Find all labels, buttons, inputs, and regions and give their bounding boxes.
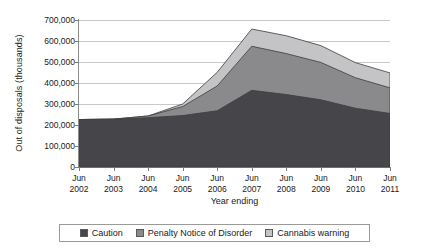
legend-swatch-icon	[80, 229, 88, 237]
chart-container: Out of disposals (thousands) 0100,000200…	[0, 0, 429, 249]
x-tick-mark	[217, 167, 218, 171]
y-tick-label: 300,000	[44, 99, 75, 109]
x-tick-mark	[114, 167, 115, 171]
y-tick-label: 200,000	[44, 120, 75, 130]
x-tick-mark	[355, 167, 356, 171]
x-tick-mark	[79, 167, 80, 171]
y-tick-mark	[75, 20, 79, 21]
legend-label: Penalty Notice of Disorder	[148, 228, 253, 238]
legend-label: Caution	[92, 228, 123, 238]
legend-swatch-icon	[265, 229, 273, 237]
x-tick-mark	[321, 167, 322, 171]
legend-item-penalty-notice-of-disorder[interactable]: Penalty Notice of Disorder	[136, 228, 253, 238]
x-tick-mark	[286, 167, 287, 171]
y-tick-label: 0	[70, 162, 75, 172]
x-tick-mark	[252, 167, 253, 171]
chart-legend: CautionPenalty Notice of DisorderCannabi…	[59, 224, 370, 242]
y-tick-label: 500,000	[44, 57, 75, 67]
y-axis-title: Out of disposals (thousands)	[14, 13, 24, 173]
legend-swatch-icon	[136, 229, 144, 237]
x-axis-title: Year ending	[79, 196, 390, 206]
x-tick-mark	[183, 167, 184, 171]
y-tick-mark	[75, 104, 79, 105]
y-tick-mark	[75, 41, 79, 42]
y-tick-mark	[75, 125, 79, 126]
x-axis-line	[78, 167, 391, 168]
y-tick-label: 400,000	[44, 78, 75, 88]
y-tick-mark	[75, 83, 79, 84]
y-tick-label: 600,000	[44, 36, 75, 46]
x-tick-mark	[148, 167, 149, 171]
stacked-area-series	[79, 20, 390, 167]
y-tick-mark	[75, 146, 79, 147]
x-tick-mark	[390, 167, 391, 171]
y-tick-label: 100,000	[44, 141, 75, 151]
y-tick-label: 700,000	[44, 15, 75, 25]
x-tick-label: Jun2011	[370, 173, 410, 194]
y-tick-mark	[75, 62, 79, 63]
legend-item-cannabis-warning[interactable]: Cannabis warning	[265, 228, 349, 238]
plot-area	[79, 20, 390, 167]
legend-item-caution[interactable]: Caution	[80, 228, 123, 238]
legend-label: Cannabis warning	[277, 228, 349, 238]
